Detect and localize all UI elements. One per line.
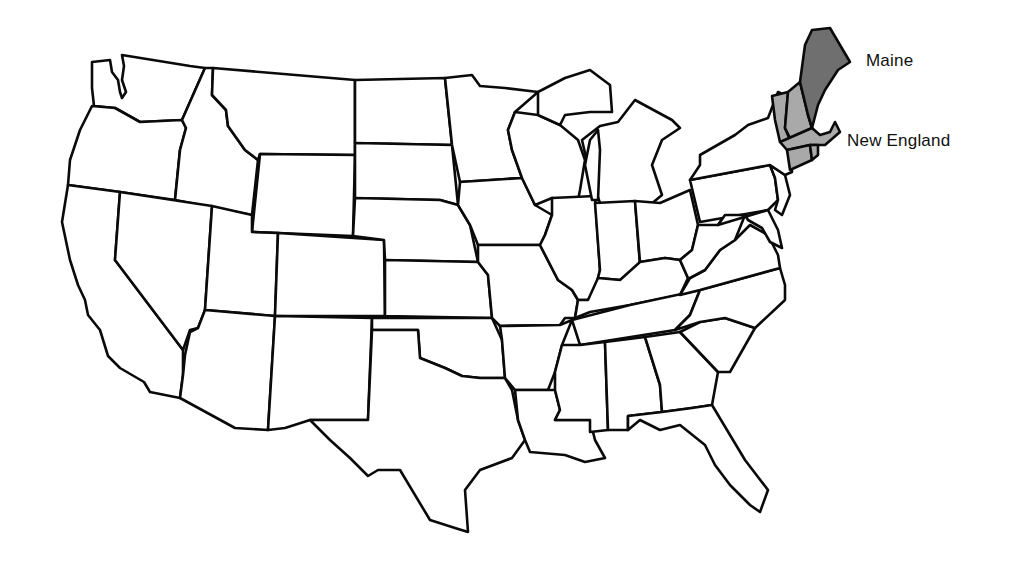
state-mississippi <box>555 342 608 432</box>
us-map <box>0 0 1026 576</box>
state-south-dakota <box>355 143 458 205</box>
state-connecticut <box>787 145 812 170</box>
maine-label: Maine <box>866 51 913 71</box>
state-florida <box>628 405 768 512</box>
state-kansas <box>385 260 492 318</box>
state-oregon <box>68 106 186 200</box>
new-england-label: New England <box>847 131 950 151</box>
state-maine <box>800 28 850 128</box>
state-michigan-upper <box>538 70 612 125</box>
state-colorado <box>275 233 385 316</box>
state-north-dakota <box>355 78 452 145</box>
state-rhode-island <box>810 145 818 160</box>
state-new-mexico <box>268 316 372 430</box>
state-wyoming <box>252 154 355 236</box>
